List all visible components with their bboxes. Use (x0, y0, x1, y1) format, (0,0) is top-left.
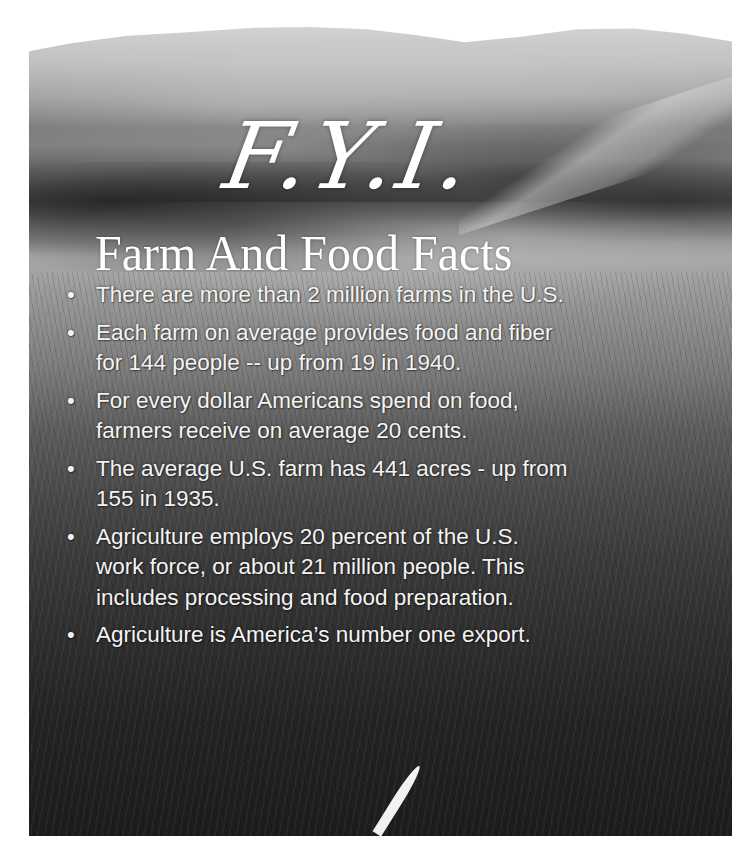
fyi-poster: F.Y.I. Farm And Food Facts • There are m… (0, 0, 754, 859)
fact-line: Agriculture employs 20 percent of the U.… (96, 522, 734, 553)
poster-subtitle: Farm And Food Facts (95, 226, 690, 280)
fact-item: • Agriculture is America’s number one ex… (64, 620, 734, 651)
bullet-icon: • (67, 522, 75, 553)
fact-line: For every dollar Americans spend on food… (96, 386, 734, 417)
fact-line: work force, or about 21 million people. … (96, 552, 734, 583)
fact-item: • The average U.S. farm has 441 acres - … (64, 454, 734, 515)
fact-item: • Agriculture employs 20 percent of the … (64, 522, 734, 614)
bullet-icon: • (67, 386, 75, 417)
fact-line: farmers receive on average 20 cents. (96, 416, 734, 447)
bullet-icon: • (67, 318, 75, 349)
fact-line: 155 in 1935. (96, 484, 734, 515)
fact-line: There are more than 2 million farms in t… (96, 280, 734, 311)
fact-line: includes processing and food preparation… (96, 583, 734, 614)
facts-list: • There are more than 2 million farms in… (64, 280, 734, 658)
bullet-icon: • (67, 280, 75, 311)
fact-line: Each farm on average provides food and f… (96, 318, 734, 349)
fact-line: The average U.S. farm has 441 acres - up… (96, 454, 734, 485)
fact-item: • There are more than 2 million farms in… (64, 280, 734, 311)
bullet-icon: • (67, 454, 75, 485)
fact-item: • Each farm on average provides food and… (64, 318, 734, 379)
bullet-icon: • (67, 620, 75, 651)
fact-item: • For every dollar Americans spend on fo… (64, 386, 734, 447)
fact-line: for 144 people -- up from 19 in 1940. (96, 348, 734, 379)
fact-line: Agriculture is America’s number one expo… (96, 620, 734, 651)
poster-heading: F.Y.I. (215, 92, 558, 222)
